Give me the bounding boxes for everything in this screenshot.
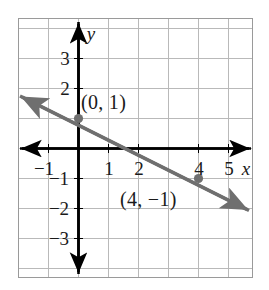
graph-canvas: [0, 0, 269, 290]
y-tick-label-neg2: −2: [49, 199, 69, 218]
y-tick-label-3: 3: [60, 49, 70, 68]
point-label-a: (0, 1): [81, 92, 126, 112]
x-tick-label-5: 5: [224, 159, 234, 178]
coordinate-plane-figure: −1 1 2 4 5 3 2 −1 −2 −3 y x (0, 1) (4, −…: [0, 0, 269, 290]
point-label-b: (4, −1): [120, 189, 177, 209]
data-point-marker-a: [74, 114, 83, 123]
x-tick-label-1: 1: [104, 159, 114, 178]
y-tick-label-neg3: −3: [49, 229, 69, 248]
x-tick-label-2: 2: [134, 159, 144, 178]
y-tick-label-neg1: −1: [49, 169, 69, 188]
y-tick-label-2: 2: [60, 79, 70, 98]
y-axis-label: y: [87, 24, 95, 43]
x-tick-label-4: 4: [194, 159, 204, 178]
x-axis-label: x: [242, 159, 250, 178]
